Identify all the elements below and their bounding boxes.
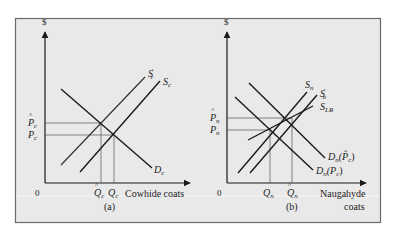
panel-b-x-axis-label-line2: coats xyxy=(344,202,365,212)
quantity-symbol: Q xyxy=(94,188,101,198)
panel-b-caption: (b) xyxy=(286,202,298,212)
price-symbol: P xyxy=(28,118,34,128)
quantity-label-q-n: Qn xyxy=(263,188,274,200)
panel-b-y-axis-label: $ xyxy=(224,18,229,27)
panel-a-y-axis-label: $ xyxy=(42,18,47,27)
figure-canvas xyxy=(0,0,393,236)
quantity-label-q-hat-n: Qn xyxy=(287,188,298,200)
curve-label-s-n-prime: S′n xyxy=(320,88,326,101)
price-label-p-c: Pc xyxy=(28,130,37,142)
panel-a-origin-label: 0 xyxy=(35,189,40,198)
panel-a-x-axis-label: Cowhide coats xyxy=(125,189,184,199)
curve-label-d-n-p-c: Dn(Pc) xyxy=(316,166,343,178)
panel-b-x-axis-label-line1: Naugahyde xyxy=(320,189,366,199)
curve-label-d-c: Dc xyxy=(154,165,164,177)
panel-b-origin-label: 0 xyxy=(217,189,222,198)
curve-label-s-lr: SLR xyxy=(320,102,333,114)
panel-a-caption: (a) xyxy=(104,202,115,212)
quantity-label-q-hat-c: Qc xyxy=(94,188,104,200)
price-label-p-n: Pn xyxy=(210,125,220,137)
quantity-label-q-c: Qc xyxy=(108,188,118,200)
curve-label-s-n: Sn xyxy=(305,80,314,92)
curve-label-s-c-prime: S′c xyxy=(148,68,154,81)
curve-label-s-c: Sc xyxy=(163,77,171,89)
curve-label-d-n-p-hat-c: Dn(P̂c) xyxy=(328,152,355,164)
